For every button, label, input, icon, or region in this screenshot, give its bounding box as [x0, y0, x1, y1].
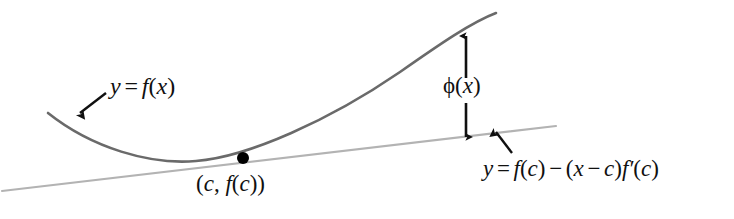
- curve-equation-label: y=f(x): [110, 74, 175, 98]
- tangent-label-open1: (: [520, 156, 528, 181]
- tangent-label-c1: c: [528, 156, 538, 181]
- tangent-equation-label: y=f(c)−(x−c)f′(c): [483, 157, 659, 180]
- phi-open-paren: (: [455, 73, 463, 98]
- point-close-paren: ): [257, 171, 265, 196]
- tangent-label-open2: (: [566, 156, 574, 181]
- curve-label-pointer: [80, 93, 106, 113]
- tangent-label-c2: c: [604, 156, 614, 181]
- curve-label-f: f: [142, 73, 149, 99]
- tangent-label-minus: −: [546, 156, 566, 181]
- tangency-point-marker: [237, 152, 249, 164]
- tangent-label-minus2: −: [584, 156, 604, 181]
- point-comma: ,: [214, 171, 220, 196]
- tangent-label-close2: ): [614, 156, 622, 181]
- tangent-label-y: y: [483, 156, 493, 181]
- tangency-point-label: (c, f(c)): [196, 172, 265, 195]
- figure-canvas: [0, 0, 734, 219]
- tangent-label-open3: (: [633, 156, 641, 181]
- curve-label-equals: =: [121, 73, 142, 99]
- curve-label-x: x: [157, 73, 168, 99]
- point-open-paren: (: [196, 171, 204, 196]
- tangent-label-close1: ): [538, 156, 546, 181]
- phi-x: x: [463, 73, 473, 98]
- phi-symbol: ϕ: [443, 73, 455, 98]
- point-inner-c: c: [239, 171, 249, 196]
- tangent-label-pointer: [496, 132, 512, 153]
- point-c: c: [204, 171, 214, 196]
- figure-container: y=f(x) ϕ(x) (c, f(c)) y=f(c)−(x−c)f′(c): [0, 0, 734, 219]
- curve-label-y: y: [110, 73, 121, 99]
- phi-measure-label: ϕ(x): [443, 74, 481, 97]
- curve-label-open-paren: (: [149, 73, 157, 99]
- tangent-label-x: x: [574, 156, 584, 181]
- tangent-label-equals: =: [493, 156, 513, 181]
- curve-label-close-paren: ): [167, 73, 175, 99]
- tangent-label-close3: ): [651, 156, 659, 181]
- tangent-label-c3: c: [641, 156, 651, 181]
- phi-close-paren: ): [473, 73, 481, 98]
